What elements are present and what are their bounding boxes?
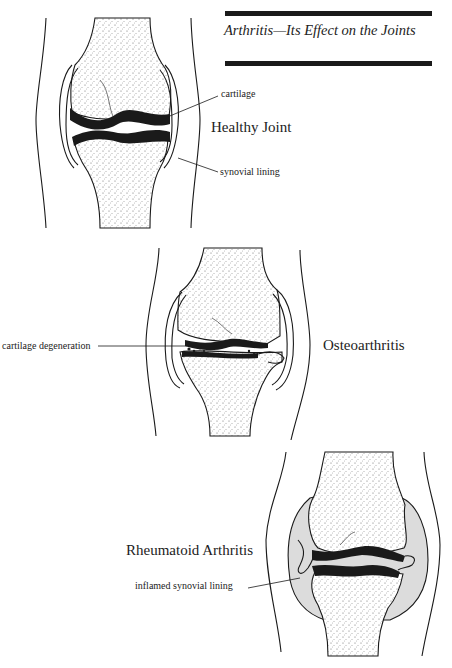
callout-synovial-lining: synovial lining (220, 166, 280, 177)
panel-title-healthy-joint: Healthy Joint (211, 119, 291, 136)
callout-cartilage-degeneration: cartilage degeneration (2, 340, 91, 351)
panel-title-osteoarthritis: Osteoarthritis (323, 337, 405, 354)
healthy-joint-illustration (36, 18, 218, 228)
callout-inflamed-synovial-lining: inflamed synovial lining (135, 580, 233, 591)
panel-title-rheumatoid-arthritis: Rheumatoid Arthritis (126, 542, 253, 559)
osteoarthritis-illustration (98, 248, 310, 440)
knee-joint-illustrations (0, 0, 452, 668)
callout-cartilage: cartilage (221, 88, 255, 99)
rheumatoid-arthritis-illustration (248, 452, 440, 656)
